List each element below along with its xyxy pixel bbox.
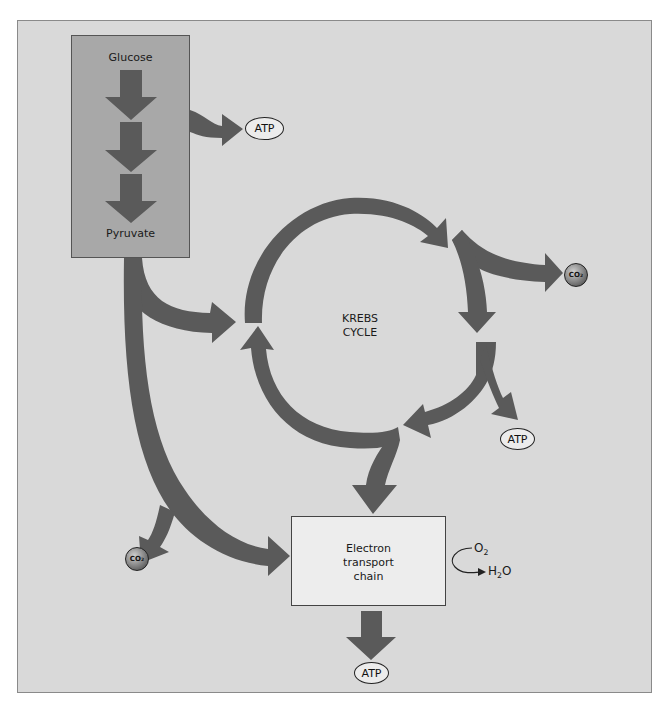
co2-sub-2: 2 — [141, 557, 144, 562]
co2-text: CO — [569, 271, 580, 279]
water-h: H — [488, 564, 497, 578]
glucose-label: Glucose — [71, 51, 190, 64]
etc-line3: chain — [291, 570, 446, 583]
krebs-title-line2: CYCLE — [330, 326, 390, 339]
glycolysis-atp-oval: ATP — [245, 117, 284, 140]
oxygen-label: O2 — [474, 541, 488, 557]
glycolysis-arrow-1-icon — [105, 70, 157, 120]
krebs-atp-oval: ATP — [500, 428, 535, 450]
etc-atp-oval: ATP — [354, 662, 389, 684]
pyruvate-co2-ball: CO2 — [125, 547, 149, 571]
water-o: O — [502, 564, 511, 578]
co2-sub: 2 — [580, 273, 583, 278]
glycolysis-arrow-3-icon — [105, 174, 157, 223]
etc-line1: Electron — [291, 542, 446, 555]
oxygen-sub: 2 — [483, 548, 488, 557]
etc-line2: transport — [291, 556, 446, 569]
pyruvate-label: Pyruvate — [71, 227, 190, 240]
glycolysis-arrow-2-icon — [105, 122, 157, 172]
water-label: H2O — [488, 564, 511, 580]
krebs-title-line1: KREBS — [330, 312, 390, 325]
co2-text-2: CO — [130, 555, 141, 563]
krebs-co2-ball: CO2 — [564, 263, 588, 287]
